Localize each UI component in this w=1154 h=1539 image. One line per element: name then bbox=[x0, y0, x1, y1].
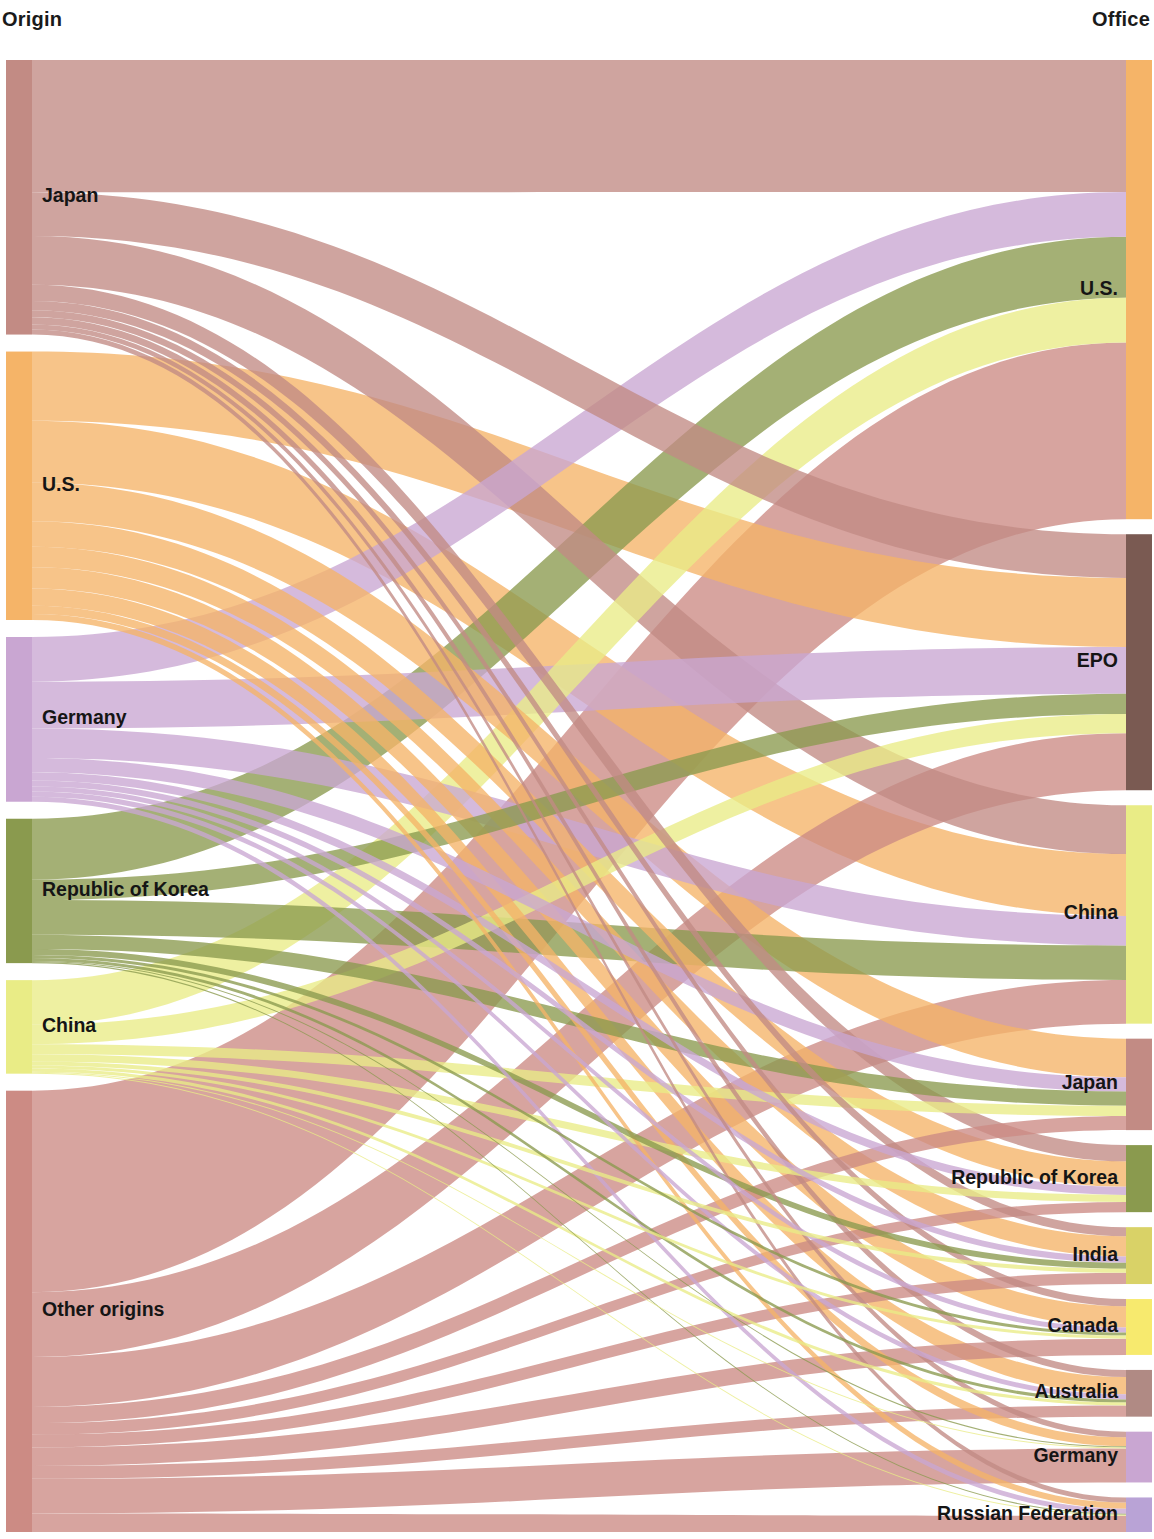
origin-node-ot[interactable] bbox=[6, 1091, 32, 1532]
office-node-oru[interactable] bbox=[1126, 1497, 1152, 1532]
origin-node-label: Germany bbox=[42, 708, 127, 728]
sankey-canvas bbox=[0, 0, 1154, 1539]
office-node-oau[interactable] bbox=[1126, 1370, 1152, 1417]
origin-node-label: U.S. bbox=[42, 475, 80, 495]
office-node-label: China bbox=[1064, 903, 1118, 923]
origin-node-kr[interactable] bbox=[6, 819, 32, 963]
origin-node-de[interactable] bbox=[6, 637, 32, 802]
office-node-ojp[interactable] bbox=[1126, 1039, 1152, 1130]
office-node-label: India bbox=[1072, 1245, 1118, 1265]
origin-node-label: Republic of Korea bbox=[42, 880, 209, 900]
office-node-oin[interactable] bbox=[1126, 1227, 1152, 1284]
office-node-oepo[interactable] bbox=[1126, 534, 1152, 790]
origin-node-cn[interactable] bbox=[6, 980, 32, 1074]
office-node-ocn[interactable] bbox=[1126, 805, 1152, 1023]
office-node-label: Germany bbox=[1033, 1446, 1118, 1466]
origin-node-us[interactable] bbox=[6, 352, 32, 620]
origin-node-label: China bbox=[42, 1016, 96, 1036]
office-node-oca[interactable] bbox=[1126, 1299, 1152, 1355]
sankey-link bbox=[32, 60, 1126, 192]
origin-node-jp[interactable] bbox=[6, 60, 32, 335]
office-node-label: Canada bbox=[1048, 1316, 1118, 1336]
origin-node-label: Japan bbox=[42, 186, 98, 206]
sankey-links-layer bbox=[32, 60, 1126, 1532]
office-node-label: Republic of Korea bbox=[951, 1168, 1118, 1188]
office-node-label: U.S. bbox=[1080, 279, 1118, 299]
office-node-label: Australia bbox=[1035, 1382, 1118, 1402]
office-node-ous[interactable] bbox=[1126, 60, 1152, 519]
office-node-ode[interactable] bbox=[1126, 1432, 1152, 1483]
office-node-label: Japan bbox=[1062, 1073, 1118, 1093]
office-node-label: Russian Federation bbox=[937, 1504, 1118, 1524]
office-node-label: EPO bbox=[1077, 651, 1118, 671]
sankey-diagram: Origin Office JapanU.S.GermanyRepublic o… bbox=[0, 0, 1154, 1539]
origin-node-label: Other origins bbox=[42, 1300, 164, 1320]
office-node-okr[interactable] bbox=[1126, 1145, 1152, 1212]
